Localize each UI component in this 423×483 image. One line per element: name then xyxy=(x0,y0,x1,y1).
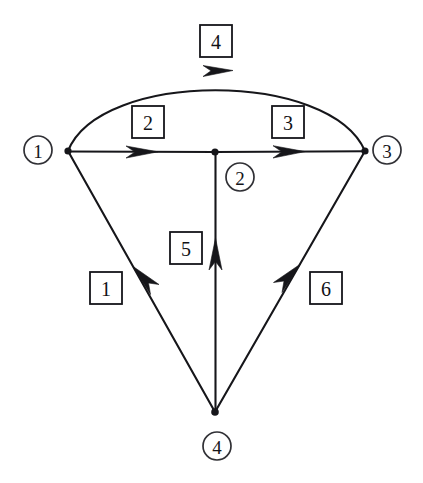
node-1-label: 1 xyxy=(33,141,43,162)
edge-label-2[interactable]: 2 xyxy=(132,106,164,138)
edge-label-1-text: 1 xyxy=(101,278,111,300)
graph-diagram: 1 2 3 4 4 2 3 5 xyxy=(0,0,423,483)
edge-label-5-text: 5 xyxy=(181,238,191,260)
edge-label-6-text: 6 xyxy=(321,278,331,300)
graph-canvas: 1 2 3 4 4 2 3 5 xyxy=(0,0,423,483)
node-4[interactable]: 4 xyxy=(203,432,231,460)
vertex-dot-1 xyxy=(64,147,71,154)
edge-label-6[interactable]: 6 xyxy=(310,272,342,304)
edge-2[interactable] xyxy=(68,146,215,158)
node-1[interactable]: 1 xyxy=(24,136,52,164)
edge-label-4[interactable]: 4 xyxy=(200,25,232,57)
edge-label-5[interactable]: 5 xyxy=(170,232,202,264)
edge-3[interactable] xyxy=(215,146,365,158)
vertex-dot-4 xyxy=(211,408,219,416)
edge-4-line xyxy=(68,90,365,151)
edge-label-3[interactable]: 3 xyxy=(272,106,304,138)
vertex-dot-3 xyxy=(361,147,368,154)
node-2-label: 2 xyxy=(235,168,245,189)
edge-label-2-text: 2 xyxy=(143,112,153,134)
edge-label-4-text: 4 xyxy=(211,31,221,53)
edge-5[interactable] xyxy=(209,152,222,412)
edge-label-3-text: 3 xyxy=(283,112,293,134)
node-3-label: 3 xyxy=(382,141,392,162)
node-3[interactable]: 3 xyxy=(373,136,401,164)
edge-label-1[interactable]: 1 xyxy=(90,272,122,304)
node-2[interactable]: 2 xyxy=(226,163,254,191)
edge-4-arrowhead xyxy=(203,66,233,77)
edge-4[interactable] xyxy=(68,66,365,152)
vertex-dot-2 xyxy=(211,148,218,155)
node-4-label: 4 xyxy=(212,437,222,458)
